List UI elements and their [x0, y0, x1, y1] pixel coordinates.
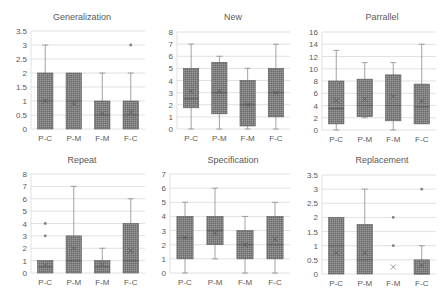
- outlier-point: [392, 244, 395, 247]
- y-tick-label: 5: [23, 207, 28, 216]
- box-iqr: [357, 79, 372, 116]
- box-iqr: [357, 225, 372, 275]
- box-iqr: [123, 224, 138, 274]
- x-category-label: P-C: [178, 278, 192, 287]
- box-f-m: [95, 248, 110, 273]
- y-tick-label: 7: [162, 170, 167, 179]
- y-tick-label: 2: [23, 69, 28, 78]
- box-p-m: [66, 186, 81, 273]
- box-iqr: [66, 236, 81, 273]
- box-f-m: [237, 216, 253, 273]
- y-tick-label: 0: [23, 269, 28, 278]
- x-category-label: F-M: [241, 134, 256, 143]
- box-f-c: [123, 199, 138, 273]
- y-tick-label: 2: [23, 244, 28, 253]
- y-tick-label: 6: [162, 184, 167, 193]
- y-tick-label: 0.5: [16, 111, 28, 120]
- box-f-m: [391, 216, 396, 269]
- chart-panel-repeat: Repeat012345678P-CP-MF-MF-C: [23, 155, 145, 287]
- x-category-label: P-M: [66, 278, 81, 287]
- y-tick-label: 1.5: [16, 83, 28, 92]
- box-p-c: [38, 222, 53, 273]
- y-tick-label: 3: [169, 89, 174, 98]
- y-tick-label: 1: [169, 113, 174, 122]
- y-tick-label: 10: [309, 65, 318, 74]
- box-f-m: [95, 73, 110, 129]
- y-tick-label: 0: [314, 126, 319, 135]
- y-tick-label: 2.5: [16, 55, 28, 64]
- y-tick-label: 0: [169, 125, 174, 134]
- x-category-label: F-C: [415, 135, 429, 144]
- box-iqr: [329, 81, 344, 124]
- box-f-m: [240, 68, 255, 129]
- y-tick-label: 2: [314, 114, 319, 123]
- outlier-point: [420, 188, 423, 191]
- x-category-label: F-M: [386, 135, 401, 144]
- chart-title: New: [224, 12, 243, 22]
- box-iqr: [212, 62, 227, 114]
- box-f-c: [268, 44, 283, 129]
- outlier-point: [392, 216, 395, 219]
- box-p-c: [329, 217, 344, 274]
- box-iqr: [267, 216, 283, 258]
- y-tick-label: 8: [169, 28, 174, 37]
- x-category-label: F-M: [238, 278, 253, 287]
- boxplot-figure: Generalization00.511.522.533.5P-CP-MF-MF…: [0, 0, 441, 303]
- y-tick-label: 3: [23, 41, 28, 50]
- y-tick-label: 1: [23, 97, 28, 106]
- x-category-label: F-M: [95, 134, 110, 143]
- x-category-label: F-M: [386, 279, 401, 288]
- x-category-label: P-C: [329, 135, 343, 144]
- x-category-label: P-M: [208, 278, 223, 287]
- y-tick-label: 3: [23, 232, 28, 241]
- x-category-label: F-C: [124, 134, 138, 143]
- y-tick-label: 1: [23, 257, 28, 266]
- outlier-point: [44, 234, 47, 237]
- x-category-label: P-C: [184, 134, 198, 143]
- box-iqr: [240, 81, 255, 126]
- x-category-label: P-C: [38, 134, 52, 143]
- x-category-label: F-C: [268, 278, 282, 287]
- box-f-m: [386, 63, 401, 130]
- y-tick-label: 2: [169, 101, 174, 110]
- box-p-m: [357, 63, 372, 118]
- x-category-label: F-C: [124, 278, 138, 287]
- box-f-c: [123, 44, 138, 129]
- y-tick-label: 4: [169, 77, 174, 86]
- y-tick-label: 4: [314, 102, 319, 111]
- y-tick-label: 2.5: [307, 199, 319, 208]
- y-tick-label: 3: [162, 227, 167, 236]
- y-tick-label: 2: [314, 213, 319, 222]
- box-p-c: [38, 45, 53, 129]
- y-tick-label: 3.5: [16, 27, 28, 36]
- x-category-label: P-C: [329, 279, 343, 288]
- y-tick-label: 5: [162, 198, 167, 207]
- x-category-label: F-C: [415, 279, 429, 288]
- chart-title: Repeat: [67, 155, 97, 165]
- y-tick-label: 1: [314, 242, 319, 251]
- x-category-label: P-M: [357, 135, 372, 144]
- y-tick-label: 6: [169, 52, 174, 61]
- box-p-m: [357, 189, 372, 274]
- mean-marker: [391, 264, 396, 269]
- y-tick-label: 0: [314, 270, 319, 279]
- chart-panel-specification: Specification01234567P-CP-MF-MF-C: [162, 155, 290, 287]
- x-category-label: P-M: [66, 134, 81, 143]
- y-tick-label: 0.5: [307, 256, 319, 265]
- box-p-m: [207, 188, 223, 259]
- figure-canvas: Generalization00.511.522.533.5P-CP-MF-MF…: [0, 0, 441, 303]
- y-tick-label: 3: [314, 185, 319, 194]
- x-category-label: F-C: [269, 134, 283, 143]
- chart-title: Replacement: [355, 155, 409, 165]
- box-iqr: [183, 68, 198, 107]
- y-tick-label: 16: [309, 28, 318, 37]
- box-iqr: [414, 84, 429, 124]
- y-tick-label: 5: [169, 64, 174, 73]
- x-category-label: F-M: [95, 278, 110, 287]
- box-p-m: [212, 56, 227, 129]
- y-tick-label: 1: [162, 255, 167, 264]
- y-tick-label: 6: [23, 195, 28, 204]
- box-p-c: [183, 44, 198, 129]
- chart-panel-replacement: Replacement00.511.522.533.5P-CP-MF-MF-C: [307, 155, 436, 288]
- box-f-c: [414, 188, 429, 274]
